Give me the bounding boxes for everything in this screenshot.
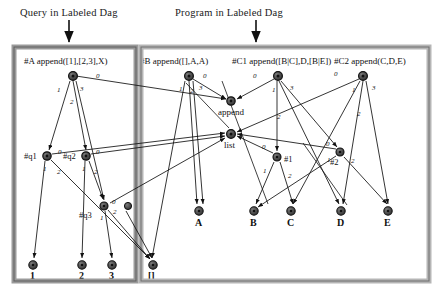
- node-2[interactable]: [336, 148, 344, 156]
- edge-C1-D: [279, 81, 339, 204]
- edge-A-q1: [49, 81, 70, 150]
- edge-C2-append: [237, 79, 359, 132]
- edge-C1-append: [237, 79, 274, 99]
- edge-n2-B: [258, 156, 336, 207]
- node-append[interactable]: [227, 97, 235, 105]
- edge-q3-list: [110, 138, 225, 203]
- edge-q3-nil: [108, 210, 150, 259]
- edge-n1-B: [256, 162, 274, 204]
- edge-A-q3: [76, 81, 104, 200]
- node-leaf-3[interactable]: [108, 261, 116, 269]
- node-B[interactable]: [185, 72, 194, 81]
- node-A[interactable]: [69, 72, 78, 81]
- node-X[interactable]: [124, 202, 131, 209]
- dag-canvas: [0, 0, 435, 289]
- node-leaf-B[interactable]: [250, 207, 258, 215]
- edge-C2-C: [293, 81, 360, 204]
- edge-n1-C: [280, 162, 293, 204]
- node-q2[interactable]: [82, 152, 90, 160]
- node-layer: [29, 72, 392, 270]
- edge-cross-2: [186, 83, 229, 128]
- node-leaf-1[interactable]: [29, 261, 37, 269]
- edge-B-nil: [152, 81, 185, 258]
- edge-C2-D: [343, 81, 363, 204]
- node-leaf-nil[interactable]: [149, 261, 157, 269]
- edge-q2-l2: [82, 161, 85, 258]
- node-q3[interactable]: [100, 202, 108, 210]
- node-leaf-C[interactable]: [287, 207, 295, 215]
- edge-layer: [34, 76, 388, 259]
- node-leaf-E[interactable]: [384, 207, 392, 215]
- edge-n2-list: [237, 134, 336, 149]
- edge-q1-l1: [34, 161, 45, 258]
- node-leaf-A[interactable]: [195, 207, 203, 215]
- node-q1[interactable]: [43, 152, 51, 160]
- node-C2[interactable]: [359, 72, 368, 81]
- edge-A-append: [76, 76, 226, 99]
- edge-C1-n2: [281, 81, 337, 147]
- figure-root: Query in Labeled Dag Program in Labeled …: [0, 0, 435, 289]
- node-1[interactable]: [273, 153, 281, 161]
- edge-q2-list: [91, 136, 225, 154]
- node-leaf-D[interactable]: [337, 207, 345, 215]
- edge-B-A2: [189, 81, 197, 204]
- program-panel-frame: [141, 47, 429, 281]
- node-list[interactable]: [227, 130, 236, 139]
- node-C1[interactable]: [274, 72, 283, 81]
- node-leaf-2[interactable]: [78, 261, 86, 269]
- edge-C2-E: [366, 81, 388, 204]
